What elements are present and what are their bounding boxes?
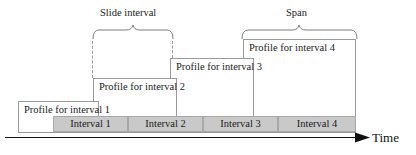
interval-cell-4[interactable]: Interval 4	[278, 116, 356, 132]
profile-box-4-label: Profile for interval 4	[249, 43, 335, 54]
dashed-guide-right	[172, 41, 173, 58]
time-axis-label: Time	[372, 131, 399, 144]
span-label: Span	[286, 8, 307, 19]
profile-box-1-label: Profile for interval 1	[24, 105, 110, 116]
profile-box-3-label: Profile for interval 3	[176, 62, 262, 73]
figure-canvas: Slide interval Span Profile for interval…	[0, 0, 416, 155]
interval-cell-1[interactable]: Interval 1	[53, 116, 128, 132]
span-brace	[241, 24, 358, 40]
dashed-guide-left	[92, 41, 93, 78]
time-axis-arrow-icon	[355, 133, 370, 143]
interval-cell-2[interactable]: Interval 2	[128, 116, 203, 132]
slide-interval-brace	[92, 24, 174, 40]
time-axis	[5, 131, 371, 144]
slide-interval-label: Slide interval	[100, 8, 156, 19]
interval-cell-3[interactable]: Interval 3	[203, 116, 278, 132]
profile-box-2-label: Profile for interval 2	[99, 82, 185, 93]
